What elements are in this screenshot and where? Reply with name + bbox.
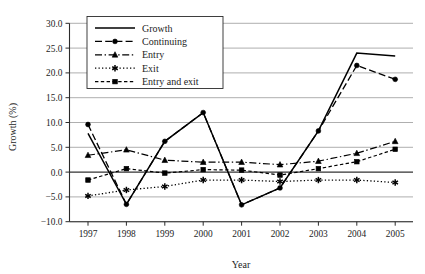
y-tick-label: 10.0 bbox=[46, 118, 63, 128]
legend-label: Continuing bbox=[142, 36, 187, 47]
y-axis-title: Growth (%) bbox=[7, 103, 19, 151]
data-point-marker bbox=[86, 122, 91, 127]
x-tick-label: 2002 bbox=[271, 229, 290, 239]
x-tick-labels-group: 199719981999200020012002200320042005 bbox=[79, 229, 405, 239]
data-point-marker bbox=[163, 171, 168, 176]
x-tick-label: 2004 bbox=[347, 229, 366, 239]
data-point-marker bbox=[124, 166, 129, 171]
y-tick-label: 15.0 bbox=[46, 93, 63, 103]
data-point-marker bbox=[354, 63, 359, 68]
data-point-marker bbox=[201, 110, 206, 115]
data-point-marker bbox=[393, 77, 398, 82]
legend: GrowthContinuingEntryExitEntry and exit bbox=[87, 17, 223, 89]
data-point-marker bbox=[239, 168, 244, 173]
legend-label: Exit bbox=[142, 63, 159, 74]
x-tick-label: 1998 bbox=[117, 229, 136, 239]
chart-container: −10.0−5.00.05.010.015.020.025.030.0 1997… bbox=[0, 0, 425, 274]
data-point-marker bbox=[86, 178, 91, 183]
data-point-marker bbox=[278, 173, 283, 178]
data-point-marker bbox=[162, 139, 167, 144]
y-tick-label: 20.0 bbox=[46, 68, 63, 78]
x-tick-label: 2005 bbox=[386, 229, 405, 239]
legend-label: Entry bbox=[142, 49, 164, 60]
data-point-marker bbox=[355, 159, 360, 164]
legend-label: Entry and exit bbox=[142, 76, 199, 87]
y-tick-label: −5.0 bbox=[45, 192, 62, 202]
y-tick-label: 25.0 bbox=[46, 44, 63, 54]
data-point-marker bbox=[124, 202, 129, 207]
x-axis-title: Year bbox=[232, 259, 251, 270]
x-tick-label: 2001 bbox=[232, 229, 251, 239]
y-tick-label: 0.0 bbox=[51, 168, 63, 178]
x-tick-label: 1999 bbox=[155, 229, 174, 239]
x-tick-label: 1997 bbox=[79, 229, 98, 239]
line-chart-figure: −10.0−5.00.05.010.015.020.025.030.0 1997… bbox=[0, 0, 425, 274]
data-point-marker bbox=[316, 129, 321, 134]
data-point-marker bbox=[201, 167, 206, 172]
y-tick-label: −10.0 bbox=[41, 217, 63, 227]
data-point-marker bbox=[316, 166, 321, 171]
x-tick-label: 2003 bbox=[309, 229, 328, 239]
y-tick-label: 5.0 bbox=[51, 143, 63, 153]
data-point-marker bbox=[239, 202, 244, 207]
legend-label: Growth bbox=[142, 23, 173, 34]
legend-marker-sample bbox=[113, 79, 118, 84]
data-point-marker bbox=[393, 147, 398, 152]
data-point-marker bbox=[278, 186, 283, 191]
legend-marker-sample bbox=[113, 39, 118, 44]
x-tick-label: 2000 bbox=[194, 229, 213, 239]
y-tick-label: 30.0 bbox=[46, 19, 63, 29]
